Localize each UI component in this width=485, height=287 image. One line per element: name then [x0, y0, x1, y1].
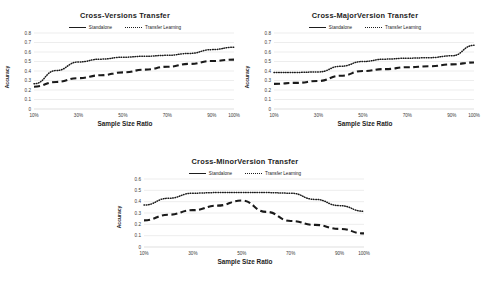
figure-three-transfer-charts: Cross-Versions Transfer Standalone Trans…: [0, 0, 485, 287]
svg-text:0.8: 0.8: [25, 31, 32, 36]
svg-text:50%: 50%: [237, 251, 246, 256]
plot-area: Accuracy 00.10.20.30.40.50.60.70.810%30%…: [248, 30, 482, 122]
svg-text:0.6: 0.6: [135, 177, 142, 182]
svg-text:0.1: 0.1: [25, 97, 32, 102]
svg-text:90%: 90%: [207, 113, 216, 118]
plot-svg-cross-minorversion: 00.10.20.30.40.50.610%30%50%70%90%100%: [118, 176, 372, 260]
legend-line-solid-icon: [309, 27, 326, 28]
svg-text:10%: 10%: [269, 113, 278, 118]
legend-line-dotted-icon: [245, 173, 262, 174]
svg-text:0: 0: [138, 245, 141, 250]
svg-text:0.4: 0.4: [135, 199, 142, 204]
svg-text:0.6: 0.6: [25, 50, 32, 55]
svg-text:0.2: 0.2: [265, 88, 272, 93]
legend-line-solid-icon: [69, 27, 86, 28]
svg-text:0: 0: [28, 107, 31, 112]
chart-title: Cross-Versions Transfer: [8, 11, 242, 20]
svg-text:0.6: 0.6: [265, 50, 272, 55]
svg-text:90%: 90%: [335, 251, 344, 256]
svg-text:10%: 10%: [139, 251, 148, 256]
chart-panel-cross-majorversion: Cross-MajorVersion Transfer Standalone T…: [248, 4, 482, 150]
svg-text:100%: 100%: [468, 113, 480, 118]
svg-text:70%: 70%: [163, 113, 172, 118]
svg-text:30%: 30%: [74, 113, 83, 118]
plot-area: Accuracy 00.10.20.30.40.50.60.70.810%30%…: [8, 30, 242, 122]
svg-text:0: 0: [268, 107, 271, 112]
svg-text:90%: 90%: [447, 113, 456, 118]
y-axis-label: Accuracy: [116, 206, 122, 229]
svg-text:0.7: 0.7: [25, 40, 32, 45]
svg-text:0.5: 0.5: [135, 188, 142, 193]
legend-line-dotted-icon: [125, 27, 142, 28]
svg-text:0.1: 0.1: [265, 97, 272, 102]
svg-text:0.1: 0.1: [135, 233, 142, 238]
svg-text:50%: 50%: [118, 113, 127, 118]
svg-text:0.5: 0.5: [265, 59, 272, 64]
chart-title: Cross-MinorVersion Transfer: [118, 157, 372, 166]
svg-text:0.3: 0.3: [25, 78, 32, 83]
svg-text:70%: 70%: [403, 113, 412, 118]
chart-title: Cross-MajorVersion Transfer: [248, 11, 482, 20]
plot-svg-cross-majorversion: 00.10.20.30.40.50.60.70.810%30%50%70%90%…: [248, 30, 482, 122]
svg-text:0.4: 0.4: [265, 69, 272, 74]
chart-panel-cross-versions: Cross-Versions Transfer Standalone Trans…: [8, 4, 242, 150]
svg-text:0.7: 0.7: [265, 40, 272, 45]
svg-text:0.5: 0.5: [25, 59, 32, 64]
svg-text:100%: 100%: [358, 251, 370, 256]
svg-text:10%: 10%: [29, 113, 38, 118]
svg-text:0.3: 0.3: [135, 211, 142, 216]
plot-area: Accuracy 00.10.20.30.40.50.610%30%50%70%…: [118, 176, 372, 260]
svg-text:50%: 50%: [358, 113, 367, 118]
legend-line-dotted-icon: [365, 27, 382, 28]
svg-text:100%: 100%: [228, 113, 240, 118]
svg-text:30%: 30%: [314, 113, 323, 118]
svg-text:0.2: 0.2: [25, 88, 32, 93]
svg-text:0.3: 0.3: [265, 78, 272, 83]
svg-text:0.8: 0.8: [265, 31, 272, 36]
svg-text:0.4: 0.4: [25, 69, 32, 74]
y-axis-label: Accuracy: [4, 66, 10, 89]
plot-svg-cross-versions: 00.10.20.30.40.50.60.70.810%30%50%70%90%…: [8, 30, 242, 122]
svg-text:0.2: 0.2: [135, 222, 142, 227]
svg-text:70%: 70%: [286, 251, 295, 256]
y-axis-label: Accuracy: [244, 66, 250, 89]
legend-line-solid-icon: [189, 173, 206, 174]
chart-panel-cross-minorversion: Cross-MinorVersion Transfer Standalone T…: [118, 150, 372, 286]
svg-text:30%: 30%: [188, 251, 197, 256]
